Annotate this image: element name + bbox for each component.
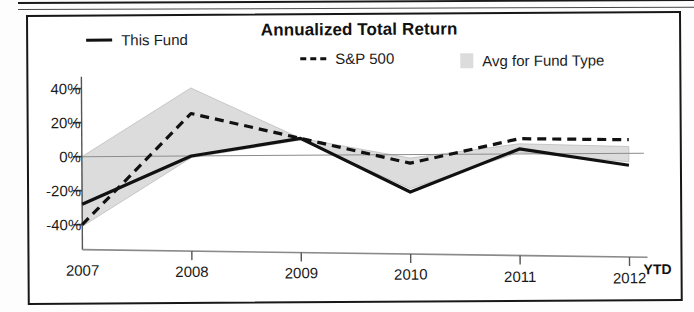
scanned-page: Annualized Total Return This Fund S&P 50… <box>0 0 694 312</box>
x-axis-tick-label: 2011 <box>504 267 536 284</box>
scan-artifact-rule-upper <box>18 0 694 4</box>
scan-artifact-rule-lower <box>18 7 694 10</box>
x-axis-tick-label: 2009 <box>285 264 318 281</box>
x-axis-tick-label: 2008 <box>175 263 208 280</box>
x-axis-tick-label: 2012 <box>613 269 646 286</box>
chart-plot-area: 40%20%0%-20%-40% 20072008200920102011201… <box>28 13 681 303</box>
x-axis-tick-label: 2007 <box>66 262 99 279</box>
x-axis-tick-label: 2010 <box>394 266 427 283</box>
chart-figure-frame: Annualized Total Return This Fund S&P 50… <box>26 11 683 305</box>
x-axis-ytd-note: YTD <box>644 261 672 277</box>
x-axis-tick-labels: 200720082009201020112012 <box>28 13 681 303</box>
